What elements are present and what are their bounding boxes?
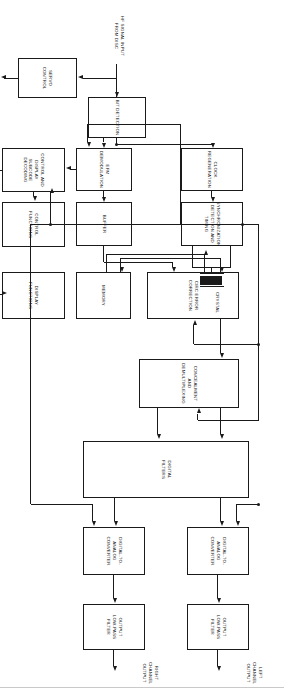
- arrow-clockregen-to-sync: [211, 197, 215, 202]
- arrow-bitdet-to-clock-regen: [211, 143, 215, 148]
- wire-bitdet-to-efm: [103, 138, 104, 142]
- wire-subcode-to-display-v: [0, 170, 2, 171]
- block-label: DIGITAL-TO- ANALOG CONVERTER: [209, 536, 226, 565]
- wire-buffer-to-circ: [103, 246, 104, 262]
- block-label: CIRC ERROR CORRECTION: [187, 279, 199, 310]
- wire-dac-clock-right-run: [30, 224, 31, 504]
- arrow-to-servo-control: [78, 75, 83, 79]
- wire-dac-clock-left-riser: [237, 504, 259, 505]
- wire-sync-bus-to-circ: [193, 325, 194, 344]
- wire-servo-to-pickup: [4, 78, 18, 79]
- wire-buffer-to-circ-v: [104, 262, 173, 263]
- wire-dac-clock-right-riser: [31, 504, 93, 505]
- wire-sync-bus-v: [181, 224, 259, 225]
- arrow-to-circ-from-memory: [220, 267, 224, 272]
- block-diagram-page: OUTPUT LOW-PASS FILTER OUTPUT LOW-PASS F…: [0, 0, 284, 697]
- block-label: DIGITAL FILTERS: [160, 460, 172, 479]
- block-display-functions: DISPLAY FUNCTIONS: [2, 272, 65, 319]
- arrow-bitdet-to-efm: [103, 143, 107, 148]
- wire-dac-clock-left: [236, 504, 237, 521]
- wire-bitdet-to-servo-h: [116, 78, 117, 97]
- wire-sync-bus-top: [258, 224, 259, 420]
- wire-dac-to-lpf-left: [217, 575, 218, 598]
- crystal-plate-left: [200, 273, 224, 274]
- wire-efm-to-buffer: [103, 191, 104, 197]
- arrow-right-channel-output: [113, 666, 117, 671]
- block-label: EFM DEMODULATION: [98, 150, 110, 187]
- block-servo-control: SERVO CONTROL: [18, 58, 77, 98]
- block-dac-right: DIGITAL-TO- ANALOG CONVERTER: [83, 527, 145, 575]
- wire-circ-to-memory-return-v: [107, 254, 205, 255]
- arrow-df-to-dac-left: [220, 521, 224, 526]
- block-circ-error-correction: CIRC ERROR CORRECTION: [147, 272, 239, 319]
- arrow-left-channel-output: [217, 666, 221, 671]
- diagram-canvas: OUTPUT LOW-PASS FILTER OUTPUT LOW-PASS F…: [1, 4, 283, 694]
- block-control-subcode-decoding: CONTROL AND DISPLAY SUBCODE DECODING: [2, 148, 65, 192]
- block-label: CLOCK REGENERATION: [206, 151, 218, 188]
- arrow-dac-to-lpf-right: [113, 598, 117, 603]
- crystal-body: [199, 276, 223, 285]
- wire-subcode-to-control: [33, 192, 34, 196]
- wire-dac-to-lpf-right: [113, 575, 114, 598]
- wire-lpf-right-out: [113, 650, 114, 666]
- block-label: BIT DETECTION: [114, 99, 120, 135]
- block-bit-detection: BIT DETECTION: [88, 97, 146, 138]
- wire-sync-to-crystal-top: [230, 246, 231, 268]
- arrow-memory-return: [204, 250, 208, 255]
- wire-crystal-stub: [211, 267, 212, 273]
- block-digital-filters: DIGITAL FILTERS: [83, 441, 249, 498]
- block-label: OUTPUT LOW-PASS FILTER: [209, 614, 226, 638]
- wire-sync-feed-v: [88, 124, 181, 125]
- block-output-lpf-right: OUTPUT LOW-PASS FILTER: [83, 604, 145, 650]
- wire-df-to-dac-left: [220, 498, 221, 521]
- arrow-circ-to-concealment: [220, 353, 224, 358]
- junction-sync-bus-circ: [258, 342, 261, 345]
- wire-lpf-left-out: [217, 650, 218, 666]
- arrow-df-to-dac-right: [114, 521, 118, 526]
- arrow-dac-to-lpf-left: [217, 598, 221, 603]
- wire-concealment-to-df-right: [157, 408, 158, 434]
- arrow-sync-feed-to-efm: [87, 142, 91, 147]
- arrow-to-display-functions: [2, 291, 7, 295]
- block-label: SERVO CONTROL: [42, 66, 54, 89]
- block-label: MEMORY: [101, 285, 107, 306]
- block-label: OUTPUT LOW-PASS FILTER: [105, 614, 122, 638]
- hf-signal-input-label: HF SIGNAL INPUT FROM DISC: [113, 10, 125, 62]
- block-label: DIGITAL-TO- ANALOG CONVERTER: [105, 536, 122, 565]
- arrow-sync-to-concealment: [197, 408, 201, 413]
- wire-circ-to-memory-return: [204, 254, 205, 272]
- wire-circ-to-concealment: [220, 319, 221, 353]
- wire-bitdet-to-servo-v: [83, 78, 117, 79]
- junction-dac-clock-left: [258, 502, 261, 505]
- wire-sync-bus-right-v: [198, 420, 259, 421]
- arrow-sync-to-circ: [193, 320, 197, 325]
- wire-clockregen-to-sync: [211, 191, 212, 197]
- crystal-plate-right: [200, 286, 224, 287]
- wire-sync-bus-to-concealment: [197, 414, 198, 420]
- wire-circ-to-memory-v: [121, 258, 221, 259]
- block-efm-demodulation: EFM DEMODULATION: [76, 148, 132, 191]
- arrow-concealment-to-df-right: [157, 434, 161, 439]
- page-bottom-rule: [0, 687, 284, 688]
- block-label: CONTROL AND DISPLAY SUBCODE DECODING: [22, 149, 45, 191]
- arrow-dac-clock-left: [236, 521, 240, 526]
- arrow-to-disc-pickup: [1, 75, 6, 79]
- arrow-memory-in: [120, 267, 124, 272]
- arrow-efm-to-buffer: [103, 197, 107, 202]
- wire-memory-return-in: [106, 254, 107, 272]
- block-label: CONCEALMENT AND DEMULTIPLEXING: [180, 363, 197, 404]
- arrow-efm-to-subcode: [66, 166, 71, 170]
- arrow-buffer-to-circ: [172, 267, 176, 272]
- block-output-lpf-left: OUTPUT LOW-PASS FILTER: [187, 604, 249, 650]
- wire-concealment-to-df-left: [220, 408, 221, 434]
- wire-df-to-dac-right: [114, 498, 115, 521]
- wire-buffer-bus-to-subcode: [50, 192, 51, 224]
- arrow-subcode-to-control: [33, 196, 37, 201]
- arrow-bus-to-subcode: [50, 188, 54, 193]
- wire-dac-clock-right-source: [31, 224, 181, 225]
- wire-sync-to-crystal-bottom: [192, 246, 193, 268]
- block-clock-regeneration: CLOCK REGENERATION: [181, 148, 243, 191]
- arrow-dac-clock-right: [92, 521, 96, 526]
- block-dac-left: DIGITAL-TO- ANALOG CONVERTER: [187, 527, 249, 575]
- wire-sync-bus-circ-v: [194, 344, 259, 345]
